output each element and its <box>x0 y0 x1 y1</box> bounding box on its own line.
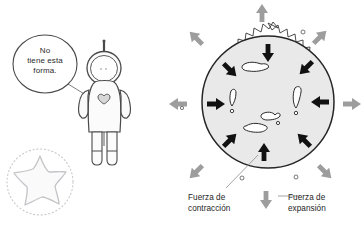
faint-star-polygon-icon <box>14 156 66 205</box>
star-blob-left-dot <box>230 109 233 112</box>
speech-line-2: tiene esta <box>14 56 76 66</box>
plasma-speck-3 <box>294 175 298 179</box>
astronaut-torso <box>88 81 121 133</box>
speech-bubble-text: No tiene esta forma. <box>14 46 76 76</box>
astronaut-leg-right <box>107 132 117 165</box>
astronaut-figure <box>79 40 131 166</box>
label-contraction-line-1: Fuerza de <box>188 193 260 204</box>
plasma-speck-4 <box>180 106 183 109</box>
illustration-canvas: No tiene esta forma. Fuerza de contracci… <box>0 0 363 226</box>
astronaut-face-dot-right <box>105 68 106 69</box>
star-blob-center-dot <box>276 121 279 124</box>
label-contraction: Fuerza de contracción <box>188 193 260 214</box>
astronaut-face-dot-left <box>100 68 101 69</box>
outward-arrow-s <box>260 191 272 209</box>
label-expansion-line-1: Fuerza de <box>288 193 360 204</box>
outward-arrow-se <box>314 161 335 182</box>
plasma-speck-1 <box>301 30 305 34</box>
star-forces-diagram <box>169 4 361 209</box>
speech-line-3: forma. <box>14 66 76 76</box>
outward-arrow-nw <box>185 27 206 48</box>
speech-line-1: No <box>14 46 76 56</box>
plasma-speck-2 <box>240 176 244 180</box>
star-blob-top <box>242 62 269 71</box>
astronaut-arm-right <box>120 90 130 118</box>
outward-arrow-n <box>256 4 268 22</box>
faint-star-shape <box>7 149 73 215</box>
astronaut-leg-left <box>92 132 102 165</box>
astronaut-antenna-tip-icon <box>103 40 106 43</box>
outward-arrow-ne <box>309 26 330 47</box>
outward-arrow-w <box>169 98 187 110</box>
star-blob-right-dot <box>294 111 297 114</box>
label-contraction-line-2: contracción <box>188 204 260 215</box>
outward-arrow-sw <box>185 161 206 182</box>
astronaut-arm-left <box>79 90 89 118</box>
astronaut-visor <box>91 56 118 82</box>
label-expansion: Fuerza de expansión <box>288 193 360 214</box>
label-expansion-line-2: expansión <box>288 204 360 215</box>
outward-arrow-e <box>343 98 361 110</box>
